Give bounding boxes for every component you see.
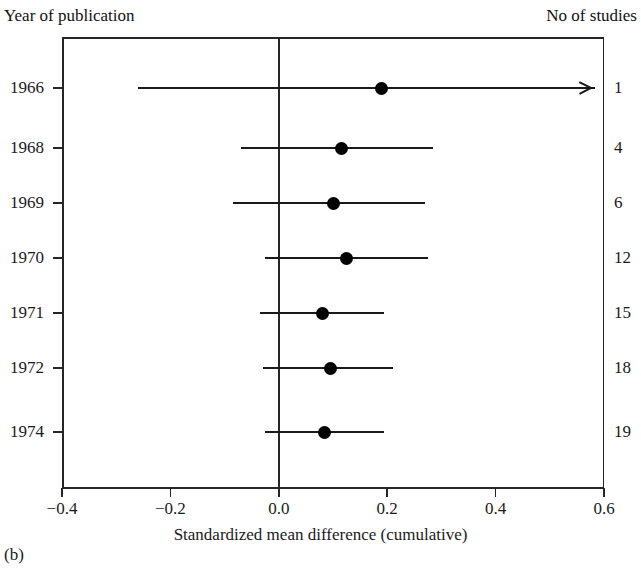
x-tick-label: 0.4 [485, 500, 506, 518]
null-effect-line [278, 37, 280, 487]
no-of-studies-value: 12 [614, 249, 631, 266]
x-tick [603, 488, 605, 497]
no-of-studies-value: 15 [614, 304, 631, 321]
x-tick [495, 488, 497, 497]
y-tick [53, 202, 62, 204]
x-axis-title: Standardized mean difference (cumulative… [0, 525, 641, 544]
y-tick [53, 87, 62, 89]
year-label: 1974 [0, 423, 44, 440]
plot-frame-top [62, 37, 604, 39]
x-tick-label: 0.2 [377, 500, 398, 518]
x-tick-label: 0.6 [593, 500, 614, 518]
x-axis-line [62, 487, 604, 489]
y-tick [53, 367, 62, 369]
no-of-studies-value: 19 [614, 423, 631, 440]
no-of-studies-value: 18 [614, 359, 631, 376]
right-column-header: No of studies [546, 6, 637, 26]
year-label: 1969 [0, 194, 44, 211]
x-tick [61, 488, 63, 497]
plot-area: −0.4−0.20.00.20.40.6 [62, 37, 604, 487]
x-tick-label: −0.2 [155, 500, 186, 518]
x-tick-label: 0.0 [268, 500, 289, 518]
year-label: 1971 [0, 304, 44, 321]
panel-label: (b) [4, 545, 24, 564]
forest-plot-figure: Year of publication No of studies −0.4−0… [0, 0, 641, 572]
point-estimate-marker [318, 426, 331, 439]
plot-frame-left [62, 37, 64, 487]
no-of-studies-value: 1 [614, 79, 623, 96]
y-tick [53, 431, 62, 433]
no-of-studies-value: 4 [614, 139, 623, 156]
left-column-header: Year of publication [4, 6, 134, 26]
y-tick [53, 312, 62, 314]
year-label: 1968 [0, 139, 44, 156]
y-tick [53, 257, 62, 259]
point-estimate-marker [327, 197, 340, 210]
year-label: 1972 [0, 359, 44, 376]
point-estimate-marker [340, 252, 353, 265]
y-tick [53, 147, 62, 149]
point-estimate-marker [375, 82, 388, 95]
point-estimate-marker [316, 307, 329, 320]
confidence-interval-line [138, 87, 595, 89]
point-estimate-marker [335, 142, 348, 155]
year-label: 1966 [0, 79, 44, 96]
x-tick [170, 488, 172, 497]
plot-frame-right [603, 37, 605, 487]
no-of-studies-value: 6 [614, 194, 623, 211]
x-tick [386, 488, 388, 497]
year-label: 1970 [0, 249, 44, 266]
x-tick-label: −0.4 [47, 500, 78, 518]
x-tick [278, 488, 280, 497]
point-estimate-marker [324, 362, 337, 375]
